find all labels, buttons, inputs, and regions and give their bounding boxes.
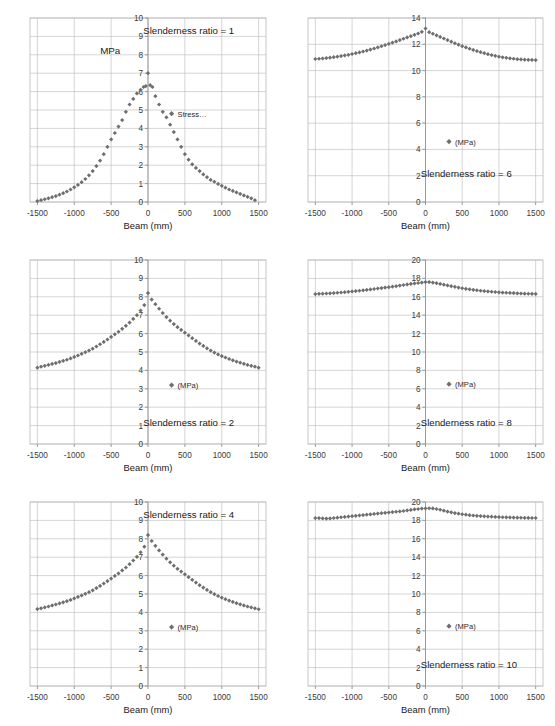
y-tick-label: 3 bbox=[138, 143, 143, 152]
y-tick-label: 8 bbox=[416, 366, 421, 375]
annotation-slenderness-ratio: Slenderness ratio = 6 bbox=[421, 168, 512, 179]
y-tick-label: 8 bbox=[416, 93, 421, 102]
annotation-slenderness-ratio: Slenderness ratio = 2 bbox=[143, 417, 234, 428]
y-tick-label: 8 bbox=[416, 608, 421, 617]
y-tick-label: 0 bbox=[138, 198, 143, 207]
chart-svg-6: 02468101214161820-1500-1000-500050010001… bbox=[278, 484, 555, 726]
chart-svg-5: 012345678910-1500-1000-500050010001500Be… bbox=[0, 484, 278, 726]
y-tick-label: 4 bbox=[138, 608, 143, 617]
y-tick-label: 16 bbox=[411, 535, 421, 544]
x-tick-label: 0 bbox=[423, 209, 428, 218]
y-tick-label: 0 bbox=[416, 198, 421, 207]
x-tick-label: 0 bbox=[146, 209, 151, 218]
chart-svg-1: 012345678910-1500-1000-500050010001500Be… bbox=[0, 0, 278, 242]
unit-label-mpa: MPa bbox=[100, 45, 121, 56]
y-tick-label: 0 bbox=[416, 682, 421, 691]
y-tick-label: 4 bbox=[416, 403, 421, 412]
x-tick-label: -1000 bbox=[342, 451, 363, 460]
x-axis-title: Beam (mm) bbox=[401, 462, 450, 473]
x-tick-label: 500 bbox=[455, 693, 469, 702]
x-tick-label: 1500 bbox=[250, 209, 269, 218]
y-tick-label: 12 bbox=[411, 572, 421, 581]
x-tick-label: 1500 bbox=[527, 209, 546, 218]
x-tick-label: -500 bbox=[103, 209, 120, 218]
x-tick-label: 1000 bbox=[490, 693, 509, 702]
x-tick-label: 500 bbox=[455, 451, 469, 460]
x-tick-label: 1500 bbox=[250, 451, 269, 460]
y-tick-label: 10 bbox=[134, 14, 144, 23]
y-tick-label: 18 bbox=[411, 274, 421, 283]
y-tick-label: 7 bbox=[138, 311, 143, 320]
chart-panel-5: 012345678910-1500-1000-500050010001500Be… bbox=[0, 484, 278, 726]
annotation-slenderness-ratio: Slenderness ratio = 1 bbox=[143, 25, 234, 36]
x-tick-label: -1000 bbox=[342, 693, 363, 702]
y-tick-label: 6 bbox=[138, 572, 143, 581]
x-tick-label: 1500 bbox=[250, 693, 269, 702]
y-tick-label: 7 bbox=[138, 553, 143, 562]
y-tick-label: 12 bbox=[411, 40, 421, 49]
y-tick-label: 9 bbox=[138, 274, 143, 283]
annotation-slenderness-ratio: Slenderness ratio = 8 bbox=[421, 417, 512, 428]
x-tick-label: -1000 bbox=[342, 209, 363, 218]
x-tick-label: 0 bbox=[146, 693, 151, 702]
y-tick-label: 10 bbox=[134, 498, 144, 507]
chart-panel-4: 02468101214161820-1500-1000-500050010001… bbox=[278, 242, 555, 484]
y-tick-label: 8 bbox=[138, 51, 143, 60]
x-tick-label: -1500 bbox=[27, 451, 48, 460]
chart-svg-3: 012345678910-1500-1000-500050010001500Be… bbox=[0, 242, 278, 484]
x-tick-label: -1000 bbox=[64, 209, 85, 218]
x-tick-label: 500 bbox=[178, 209, 192, 218]
annotation-slenderness-ratio: Slenderness ratio = 4 bbox=[143, 509, 235, 520]
x-tick-label: 1500 bbox=[527, 451, 546, 460]
x-tick-label: 1500 bbox=[527, 693, 546, 702]
x-axis-title: Beam (mm) bbox=[401, 220, 450, 231]
y-tick-label: 3 bbox=[138, 385, 143, 394]
y-tick-label: 5 bbox=[138, 348, 143, 357]
legend-label: (MPa) bbox=[178, 381, 199, 390]
figure-grid: 012345678910-1500-1000-500050010001500Be… bbox=[0, 0, 555, 726]
y-tick-label: 2 bbox=[138, 161, 143, 170]
chart-panel-1: 012345678910-1500-1000-500050010001500Be… bbox=[0, 0, 278, 242]
x-tick-label: 500 bbox=[178, 451, 192, 460]
y-tick-label: 10 bbox=[411, 348, 421, 357]
x-axis-title: Beam (mm) bbox=[401, 704, 450, 715]
chart-panel-6: 02468101214161820-1500-1000-500050010001… bbox=[278, 484, 555, 726]
y-tick-label: 18 bbox=[411, 516, 421, 525]
legend-label: (MPa) bbox=[455, 138, 476, 147]
y-tick-label: 4 bbox=[138, 124, 143, 133]
y-tick-label: 6 bbox=[416, 119, 421, 128]
y-tick-label: 10 bbox=[411, 67, 421, 76]
x-tick-label: 0 bbox=[423, 693, 428, 702]
x-axis-title: Beam (mm) bbox=[124, 462, 173, 473]
x-tick-label: -1500 bbox=[305, 451, 326, 460]
legend-label: (MPa) bbox=[455, 380, 476, 389]
x-tick-label: 0 bbox=[423, 451, 428, 460]
y-tick-label: 4 bbox=[416, 645, 421, 654]
x-tick-label: -500 bbox=[381, 209, 398, 218]
x-tick-label: 1000 bbox=[213, 451, 232, 460]
x-tick-label: -500 bbox=[103, 693, 120, 702]
x-tick-label: 500 bbox=[455, 209, 469, 218]
y-tick-label: 20 bbox=[411, 498, 421, 507]
y-tick-label: 8 bbox=[138, 535, 143, 544]
chart-panel-3: 012345678910-1500-1000-500050010001500Be… bbox=[0, 242, 278, 484]
x-tick-label: -1000 bbox=[64, 451, 85, 460]
annotation-slenderness-ratio: Slenderness ratio = 10 bbox=[421, 659, 517, 670]
y-tick-label: 10 bbox=[411, 590, 421, 599]
y-tick-label: 8 bbox=[138, 293, 143, 302]
y-tick-label: 10 bbox=[134, 256, 144, 265]
y-tick-label: 6 bbox=[138, 330, 143, 339]
x-axis-title: Beam (mm) bbox=[124, 220, 173, 231]
x-tick-label: -1500 bbox=[27, 693, 48, 702]
y-tick-label: 1 bbox=[138, 664, 143, 673]
y-tick-label: 14 bbox=[411, 14, 421, 23]
y-tick-label: 4 bbox=[416, 145, 421, 154]
y-tick-label: 1 bbox=[138, 180, 143, 189]
x-tick-label: -500 bbox=[103, 451, 120, 460]
x-tick-label: 1000 bbox=[490, 209, 509, 218]
x-tick-label: 1000 bbox=[490, 451, 509, 460]
y-tick-label: 3 bbox=[138, 627, 143, 636]
y-tick-label: 0 bbox=[138, 682, 143, 691]
x-tick-label: 0 bbox=[146, 451, 151, 460]
x-tick-label: -500 bbox=[381, 451, 398, 460]
